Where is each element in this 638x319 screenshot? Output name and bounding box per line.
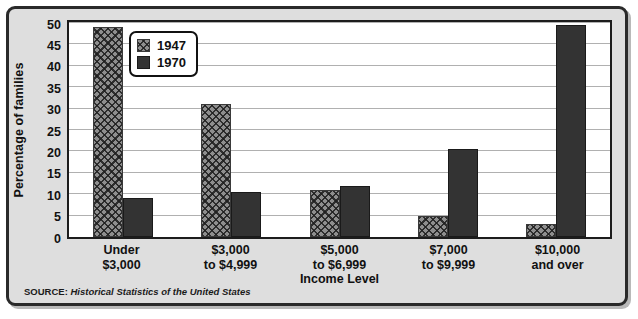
bar-1947-3 — [310, 190, 340, 237]
y-axis-tick: 15 — [47, 168, 61, 181]
bar-1970-5 — [556, 25, 586, 237]
y-axis-tick: 20 — [47, 147, 61, 160]
legend-label-1947: 1947 — [157, 39, 186, 52]
y-axis-tick: 0 — [54, 232, 61, 245]
x-tick-line2: to $4,999 — [176, 258, 285, 273]
bar-1970-4 — [448, 149, 478, 237]
bar-group — [285, 22, 393, 237]
y-axis-tick: 40 — [47, 61, 61, 74]
y-axis-tick: 5 — [54, 211, 61, 224]
y-axis-tick: 50 — [47, 18, 61, 31]
chart-legend: 1947 1970 — [129, 31, 198, 77]
bar-1947-5 — [526, 224, 556, 237]
bar-1947-1 — [93, 27, 123, 237]
source-note: SOURCE: Historical Statistics of the Uni… — [24, 286, 250, 297]
legend-swatch-1947-icon — [137, 39, 150, 52]
x-tick-line1: $3,000 — [211, 243, 249, 257]
legend-item-1970: 1970 — [137, 54, 186, 71]
x-tick-line1: $10,000 — [535, 243, 580, 257]
y-axis-title: Percentage of families — [8, 22, 30, 238]
legend-item-1947: 1947 — [137, 37, 186, 54]
source-prefix: SOURCE: — [24, 286, 68, 297]
x-tick-line1: $5,000 — [320, 243, 358, 257]
x-tick-line2: to $6,999 — [285, 258, 394, 273]
bar-1947-2 — [201, 104, 231, 237]
legend-swatch-1970-icon — [137, 56, 150, 69]
x-tick-line2: and over — [503, 258, 612, 273]
bar-1970-3 — [340, 186, 370, 237]
chart-figure: Percentage of families 05101520253035404… — [0, 0, 638, 319]
y-axis-tick: 45 — [47, 40, 61, 53]
y-axis-tick: 30 — [47, 104, 61, 117]
source-title: Historical Statistics of the United Stat… — [70, 286, 250, 297]
y-axis-tick: 35 — [47, 82, 61, 95]
bar-group — [394, 22, 502, 237]
y-axis-tick: 10 — [47, 189, 61, 202]
bar-group — [502, 22, 610, 237]
y-axis-title-text: Percentage of families — [12, 63, 26, 198]
bar-1970-1 — [123, 198, 153, 237]
x-tick-line1: Under — [103, 243, 139, 257]
legend-label-1970: 1970 — [157, 56, 186, 69]
x-tick-line2: to $9,999 — [394, 258, 503, 273]
y-axis-tick-labels: 05101520253035404550 — [30, 22, 64, 238]
x-tick-line1: $7,000 — [429, 243, 467, 257]
bar-1947-4 — [418, 216, 448, 237]
x-tick-line2: $3,000 — [67, 258, 176, 273]
y-axis-tick: 25 — [47, 125, 61, 138]
bar-1970-2 — [231, 192, 261, 237]
x-axis-title: Income Level — [67, 272, 612, 286]
